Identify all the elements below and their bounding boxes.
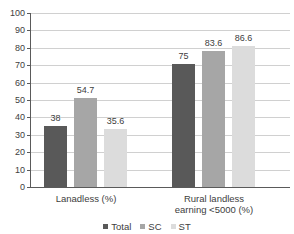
y-axis-tick-label: 30 [1,131,25,140]
x-axis-category-label: Rural landlessearning <5000 (%) [144,193,284,215]
y-axis-tick-label: 20 [1,148,25,157]
gridline [31,13,290,14]
legend-item-st[interactable]: ST [171,221,191,232]
y-axis-tick [27,152,31,153]
bar-sc-group1[interactable] [74,98,97,187]
y-axis-tick-label: 60 [1,79,25,88]
gridline [31,30,290,31]
bar-total-group2[interactable] [172,64,195,187]
x-axis-category-line: Rural landless [144,193,284,204]
bar-value-label: 35.6 [98,117,133,126]
bar-value-label: 86.6 [226,34,261,43]
legend-item-sc[interactable]: SC [140,221,161,232]
x-axis-category-line: earning <5000 (%) [144,204,284,215]
y-axis-tick [27,170,31,171]
y-axis-tick [27,100,31,101]
bar-total-group1[interactable] [44,126,67,187]
y-axis-tick-label: 100 [1,9,25,18]
y-axis-tick [27,135,31,136]
y-axis-tick [27,83,31,84]
y-axis-tick [27,48,31,49]
y-axis-tick-label: 10 [1,166,25,175]
y-axis-tick-label: 70 [1,61,25,70]
bar-value-label: 75 [166,52,201,61]
y-axis-tick [27,117,31,118]
y-axis-tick [27,13,31,14]
x-axis-category-line: Lanadless (%) [16,193,156,204]
bar-st-group1[interactable] [104,129,127,187]
legend-swatch-icon [140,224,145,229]
legend-label: ST [179,221,191,232]
bar-chart: 1009080706050403020100 TotalSCST 387554.… [0,0,294,234]
bar-value-label: 38 [38,114,73,123]
y-axis-tick-label: 90 [1,26,25,35]
y-axis-tick [27,30,31,31]
legend-swatch-icon [171,224,176,229]
axis-baseline [31,187,290,188]
bar-value-label: 54.7 [68,86,103,95]
y-axis-tick [27,187,31,188]
chart-legend: TotalSCST [0,221,294,232]
x-axis-category-label: Lanadless (%) [16,193,156,204]
y-axis-tick-label: 40 [1,113,25,122]
legend-item-total[interactable]: Total [103,221,131,232]
legend-swatch-icon [103,224,108,229]
y-axis-tick [27,65,31,66]
legend-label: SC [148,221,161,232]
legend-label: Total [111,221,131,232]
bar-sc-group2[interactable] [202,51,225,187]
y-axis-tick-label: 0 [1,183,25,192]
bar-st-group2[interactable] [232,46,255,187]
y-axis-tick-label: 80 [1,44,25,53]
y-axis-tick-label: 50 [1,96,25,105]
